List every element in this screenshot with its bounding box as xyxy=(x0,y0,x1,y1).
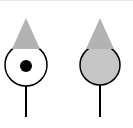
triangle-pointer-right-icon xyxy=(86,18,114,49)
triangle-pointer-left-icon xyxy=(12,18,40,49)
marker-right xyxy=(80,18,120,117)
marker-left xyxy=(5,18,47,117)
marker-diagram xyxy=(0,0,133,128)
circle-right xyxy=(80,45,120,85)
center-dot-icon xyxy=(20,60,32,72)
